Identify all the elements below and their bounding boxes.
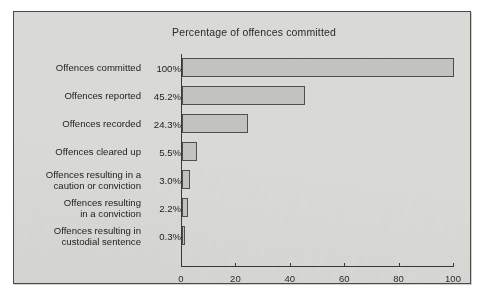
x-tick-label: 20 xyxy=(230,273,241,284)
x-tick-label: 60 xyxy=(339,273,350,284)
x-tick-mark xyxy=(290,263,291,267)
category-label-5: Offences resulting in a conviction xyxy=(0,197,141,220)
plot-area: 020406080100 xyxy=(181,54,455,267)
value-label-2: 24.3% xyxy=(147,119,181,130)
bar xyxy=(182,114,248,133)
category-row-2: Offences recorded 24.3% xyxy=(22,110,181,138)
category-label-1: Offences reported xyxy=(0,90,141,102)
category-row-1: Offences reported 45.2% xyxy=(22,82,181,110)
x-tick-label: 0 xyxy=(178,273,183,284)
chart-title: Percentage of offences committed xyxy=(14,26,470,38)
x-tick-mark xyxy=(453,263,454,267)
bar xyxy=(182,58,454,77)
category-axis-labels: Offences committed 100% Offences reporte… xyxy=(22,54,181,267)
bar xyxy=(182,142,197,161)
category-row-4: Offences resulting in a caution or convi… xyxy=(22,166,181,194)
value-label-6: 0.3% xyxy=(147,231,181,242)
bar xyxy=(182,198,188,217)
x-tick-label: 80 xyxy=(393,273,404,284)
x-tick-label: 40 xyxy=(285,273,296,284)
x-tick-mark xyxy=(399,263,400,267)
bar xyxy=(182,226,185,245)
value-label-5: 2.2% xyxy=(147,203,181,214)
bar xyxy=(182,86,305,105)
category-row-6: Offences resulting in custodial sentence… xyxy=(22,222,181,250)
chart-figure: Percentage of offences committed Offence… xyxy=(13,11,471,284)
x-tick-label: 100 xyxy=(445,273,461,284)
category-label-6: Offences resulting in custodial sentence xyxy=(0,225,141,248)
x-tick-mark xyxy=(235,263,236,267)
category-row-5: Offences resulting in a conviction 2.2% xyxy=(22,194,181,222)
category-label-3: Offences cleared up xyxy=(0,146,141,158)
bar xyxy=(182,170,190,189)
category-row-0: Offences committed 100% xyxy=(22,54,181,82)
value-label-1: 45.2% xyxy=(147,91,181,102)
category-label-0: Offences committed xyxy=(0,62,141,74)
value-label-4: 3.0% xyxy=(147,175,181,186)
x-tick-mark xyxy=(344,263,345,267)
x-tick-mark xyxy=(181,263,182,267)
category-label-2: Offences recorded xyxy=(0,118,141,130)
value-label-3: 5.5% xyxy=(147,147,181,158)
value-label-0: 100% xyxy=(147,63,181,74)
category-row-3: Offences cleared up 5.5% xyxy=(22,138,181,166)
category-label-4: Offences resulting in a caution or convi… xyxy=(0,169,141,192)
x-axis-line xyxy=(181,266,454,267)
